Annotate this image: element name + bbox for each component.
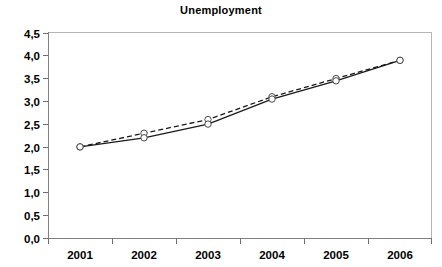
y-tick-label: 0,5 bbox=[24, 210, 41, 222]
data-point-marker bbox=[141, 135, 147, 141]
y-tick-label: 2,5 bbox=[24, 119, 41, 131]
y-tick-label: 3,5 bbox=[24, 73, 41, 85]
chart-container: Unemployment 4,5 4 bbox=[0, 0, 442, 267]
x-tick-label-2004: 2004 bbox=[259, 249, 285, 261]
y-tick-label: 4,5 bbox=[24, 28, 41, 40]
x-axis-tick-labels: 2001 2002 2003 2004 2005 2006 bbox=[67, 249, 413, 261]
y-tick-label: 3,0 bbox=[24, 96, 40, 108]
x-tick-label-2002: 2002 bbox=[131, 249, 157, 261]
y-tick-label: 2,0 bbox=[24, 142, 40, 154]
plot-background bbox=[48, 32, 432, 238]
data-point-marker bbox=[77, 144, 83, 150]
data-point-marker bbox=[269, 96, 275, 102]
data-point-marker bbox=[397, 57, 403, 63]
y-tick-label: 1,5 bbox=[24, 164, 41, 176]
data-point-marker bbox=[333, 78, 339, 84]
line-chart-plot: 4,5 4,0 3,5 3,0 2,5 2,0 1,5 1,0 0,5 0,0 … bbox=[0, 0, 442, 267]
y-tick-label: 0,0 bbox=[24, 233, 40, 245]
x-tick-label-2006: 2006 bbox=[387, 249, 413, 261]
y-axis-ticks bbox=[43, 33, 48, 238]
data-point-marker bbox=[205, 121, 211, 127]
x-tick-label-2001: 2001 bbox=[67, 249, 93, 261]
y-tick-label: 1,0 bbox=[24, 187, 40, 199]
x-tick-label-2003: 2003 bbox=[195, 249, 221, 261]
y-tick-label: 4,0 bbox=[24, 50, 40, 62]
y-axis-tick-labels: 4,5 4,0 3,5 3,0 2,5 2,0 1,5 1,0 0,5 0,0 bbox=[24, 28, 41, 245]
x-tick-label-2005: 2005 bbox=[323, 249, 349, 261]
